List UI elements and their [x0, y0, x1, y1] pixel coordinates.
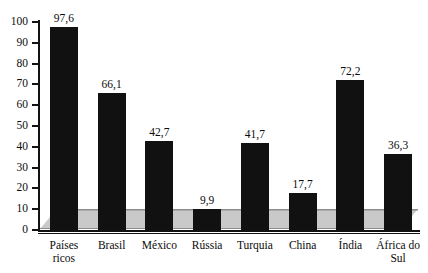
bar-item[interactable]: 36,3	[384, 139, 412, 230]
bar-item[interactable]: 41,7	[241, 128, 269, 230]
bar-rect[interactable]	[336, 80, 364, 230]
bar-item[interactable]: 66,1	[98, 78, 126, 230]
bar-value-label: 41,7	[245, 128, 265, 140]
bar-rect[interactable]	[384, 154, 412, 230]
bar-value-label: 72,2	[340, 65, 360, 77]
bar-value-label: 42,7	[149, 126, 169, 138]
bar-value-label: 66,1	[102, 78, 122, 90]
x-axis-line-shadow	[38, 233, 420, 234]
bar-item[interactable]: 42,7	[145, 126, 173, 230]
bar-rect[interactable]	[193, 209, 221, 230]
bar-rect[interactable]	[289, 193, 317, 230]
bar-item[interactable]: 9,9	[193, 194, 221, 230]
bar-chart: 1009080706050403020100 97,666,142,79,941…	[0, 0, 428, 273]
bar-value-label: 9,9	[200, 194, 214, 206]
x-axis-category-label-line: Sul	[370, 252, 426, 265]
bar-value-label: 17,7	[293, 178, 313, 190]
bar-rect[interactable]	[241, 143, 269, 230]
bar-item[interactable]: 97,6	[50, 12, 78, 230]
x-axis-category-label: África doSul	[370, 239, 426, 265]
bar-rect[interactable]	[145, 141, 173, 230]
x-axis-category-label-line: África do	[370, 239, 426, 252]
bar-rect[interactable]	[50, 27, 78, 230]
x-axis-category-label-line: ricos	[36, 252, 92, 265]
x-axis-line	[38, 230, 420, 232]
bar-rect[interactable]	[98, 93, 126, 230]
bar-item[interactable]: 17,7	[289, 178, 317, 230]
bar-value-label: 97,6	[54, 12, 74, 24]
bar-item[interactable]: 72,2	[336, 65, 364, 230]
bar-value-label: 36,3	[388, 139, 408, 151]
